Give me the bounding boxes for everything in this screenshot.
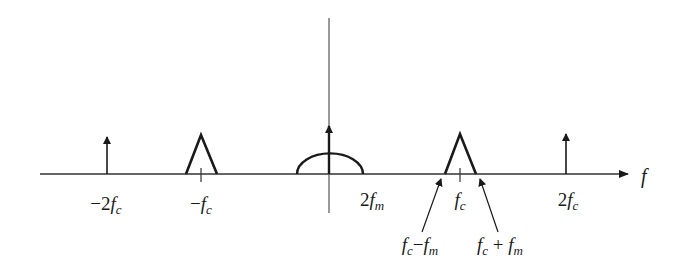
spectrum-diagram: f −2fc −fc 2fm fc 2fc fc−fm fc + fm bbox=[0, 0, 684, 271]
label-minus-2fc: −2fc bbox=[90, 194, 121, 213]
baseband-component bbox=[297, 126, 363, 174]
label-fc: fc bbox=[454, 190, 465, 209]
axis-label-f: f bbox=[641, 166, 647, 186]
label-minus-fc: −fc bbox=[190, 194, 212, 213]
triangle-minus-fc bbox=[186, 135, 217, 182]
spectrum-drawing bbox=[0, 0, 684, 271]
annotation-fc-minus-fm: fc−fm bbox=[402, 235, 438, 254]
pointer-fc-minus-fm bbox=[422, 179, 441, 232]
annotation-fc-plus-fm: fc + fm bbox=[477, 235, 523, 254]
triangle-plus-fc bbox=[445, 134, 476, 182]
pointer-fc-plus-fm bbox=[480, 179, 498, 232]
label-2fc: 2fc bbox=[558, 190, 579, 209]
label-2fm: 2fm bbox=[360, 190, 384, 209]
